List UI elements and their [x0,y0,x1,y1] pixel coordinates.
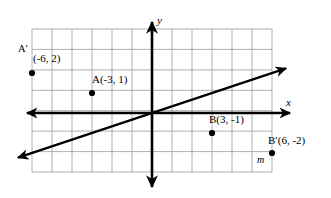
point-A [89,90,95,96]
coordinate-plane-canvas [0,0,331,198]
line-m-label: m [257,155,264,165]
point-B-label: B(3, -1) [209,114,244,125]
x-axis-label: x [286,97,291,108]
point-A-label: A(-3, 1) [92,74,127,85]
point-B-prime-label: B′(6, -2) [268,135,305,146]
point-B-prime [269,150,275,156]
point-A-prime [29,70,35,76]
point-A-prime-marker-label: A′ [18,44,28,55]
y-axis-label: y [157,15,162,26]
coordinate-plane-figure: y x A′ (-6, 2) A(-3, 1) B(3, -1) B′(6, -… [0,0,331,198]
point-A-prime-label: (-6, 2) [33,53,61,64]
point-B [209,130,215,136]
